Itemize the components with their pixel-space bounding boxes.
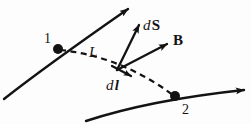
point-2-dot: [170, 91, 180, 101]
curve-L-label: L: [89, 45, 97, 60]
vector-dl-label: d l: [106, 78, 119, 93]
vector-dl-differential: d: [106, 77, 114, 93]
physics-vector-diagram: 1 2 L d S B d l: [0, 0, 251, 124]
vector-dl-symbol: l: [115, 77, 119, 93]
diagram-canvas: [0, 0, 251, 124]
vector-B-label: B: [173, 33, 183, 48]
vector-dS-label: d S: [143, 18, 160, 33]
point-1-dot: [53, 44, 63, 54]
point-2-label: 2: [182, 103, 189, 117]
vector-dS-symbol: S: [152, 17, 160, 33]
vector-dS-differential: d: [143, 17, 151, 33]
field-line-lower: [86, 90, 244, 121]
point-1-label: 1: [44, 32, 51, 46]
